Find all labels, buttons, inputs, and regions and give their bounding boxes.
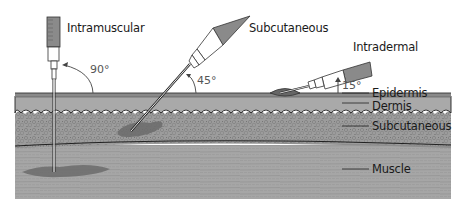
label-angle-45: 45° <box>197 74 217 87</box>
label-muscle: Muscle <box>372 162 411 176</box>
label-epidermis: Epidermis <box>372 86 427 100</box>
label-intradermal: Intradermal <box>353 40 418 54</box>
label-subcutaneous-layer: Subcutaneous <box>372 119 451 133</box>
label-angle-90: 90° <box>90 63 110 76</box>
label-dermis: Dermis <box>372 99 412 113</box>
label-intramuscular: Intramuscular <box>67 21 144 35</box>
label-subcutaneous-injection: Subcutaneous <box>249 21 328 35</box>
angle-arc-90 <box>64 65 93 93</box>
label-angle-15: 15° <box>342 79 362 92</box>
angle-arc-45 <box>188 75 196 93</box>
